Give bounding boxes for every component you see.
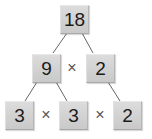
edge-9-3a <box>25 82 37 101</box>
node-level1-right: 2 <box>86 54 115 83</box>
edge-9-3b <box>56 82 67 101</box>
edge-18-2 <box>82 33 93 53</box>
node-level2-3: 2 <box>113 101 142 130</box>
node-level2-1: 3 <box>5 101 34 130</box>
node-level2-2: 3 <box>59 101 88 130</box>
node-level1-left: 9 <box>32 54 61 83</box>
edge-2-2 <box>108 82 120 101</box>
multiply-operator: × <box>65 59 79 77</box>
multiply-operator: × <box>39 106 53 124</box>
edge-18-9 <box>53 33 67 53</box>
multiply-operator: × <box>93 106 107 124</box>
node-root: 18 <box>60 5 89 34</box>
